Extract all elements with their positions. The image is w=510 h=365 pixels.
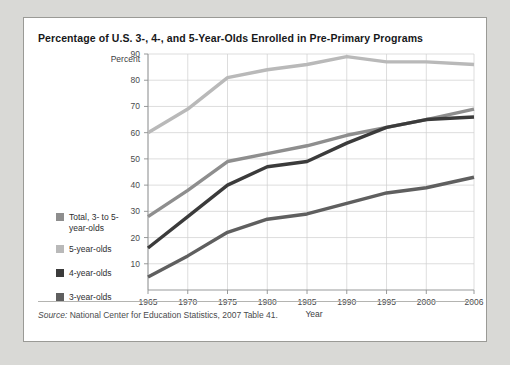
chart-plot: 102030405060708090 196519701975198019851…: [24, 18, 488, 343]
svg-text:1980: 1980: [258, 297, 277, 307]
data-series: [148, 57, 474, 277]
svg-text:40: 40: [131, 180, 141, 190]
y-axis-tick-labels: 102030405060708090: [131, 49, 148, 269]
svg-text:10: 10: [131, 259, 141, 269]
source-note: Source: National Center for Education St…: [38, 310, 278, 320]
legend-label-total: Total, 3- to 5-: [69, 212, 119, 222]
legend-swatch-three: [56, 293, 64, 301]
svg-text:70: 70: [131, 101, 141, 111]
svg-text:1995: 1995: [377, 297, 396, 307]
figure-card: Percentage of U.S. 3-, 4-, and 5-Year-Ol…: [23, 17, 487, 342]
legend-label-total-line2: year-olds: [69, 223, 104, 233]
svg-text:1985: 1985: [298, 297, 317, 307]
svg-text:2006: 2006: [465, 297, 484, 307]
svg-text:50: 50: [131, 154, 141, 164]
gridlines: [148, 54, 474, 290]
svg-text:1970: 1970: [178, 297, 197, 307]
legend-swatch-four: [56, 269, 64, 277]
x-axis-label: Year: [305, 309, 322, 319]
legend-label-four: 4-year-olds: [69, 268, 112, 278]
source-text: National Center for Education Statistics…: [70, 310, 278, 320]
legend-swatch-total: [56, 213, 64, 221]
axes: [148, 54, 474, 290]
source-label: Source:: [38, 310, 67, 320]
svg-text:1965: 1965: [139, 297, 158, 307]
y-axis-label: Percent: [111, 54, 141, 64]
svg-text:20: 20: [131, 233, 141, 243]
svg-text:80: 80: [131, 75, 141, 85]
svg-text:1975: 1975: [218, 297, 237, 307]
series-line-three: [148, 177, 474, 277]
source-divider: [38, 301, 474, 302]
legend-label-five: 5-year-olds: [69, 244, 112, 254]
legend-swatch-five: [56, 245, 64, 253]
svg-text:2000: 2000: [417, 297, 436, 307]
svg-text:60: 60: [131, 128, 141, 138]
svg-text:30: 30: [131, 206, 141, 216]
series-line-total: [148, 109, 474, 217]
x-axis-tick-labels: 196519701975198019851990199520002006: [139, 290, 484, 307]
svg-text:1990: 1990: [337, 297, 356, 307]
chart-legend: Total, 3- to 5-year-olds5-year-olds4-yea…: [56, 212, 119, 302]
